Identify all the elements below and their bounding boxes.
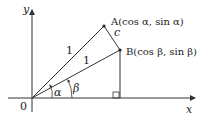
angle-alpha-label: α [54,86,62,99]
segment-OB-length: 1 [83,54,90,67]
angle-beta-label: β [72,82,79,95]
diagram-canvas: y x 0 A(cos α, sin α) B(cos β, sin β) c … [0,0,201,118]
point-B-label: B(cos β, sin β) [126,46,197,57]
point-A [102,24,105,27]
origin-label: 0 [20,100,27,113]
x-axis-label: x [186,103,193,116]
point-B [118,48,121,51]
y-axis-label: y [22,3,30,16]
segment-OA-length: 1 [66,44,73,57]
right-angle-marker [113,92,119,98]
angle-beta-arc [68,80,72,98]
segment-c-label: c [114,26,120,39]
segment-OA [32,26,104,98]
point-A-label: A(cos α, sin α) [110,16,184,27]
